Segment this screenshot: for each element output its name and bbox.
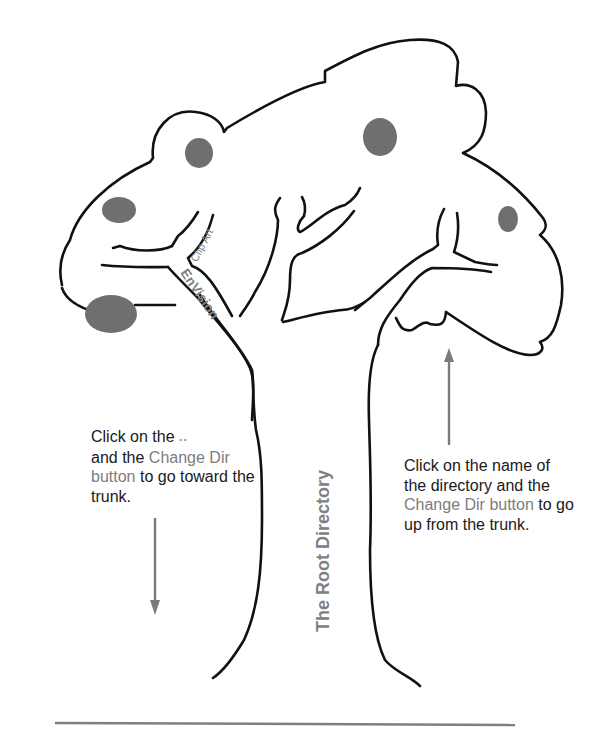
tree-illustration [0, 0, 611, 736]
fruit [498, 206, 518, 232]
branch-right-lower [378, 268, 491, 345]
branch-right-fork-b [454, 213, 497, 265]
caption-toward-trunk: Click on the .. and the Change Dir butto… [91, 427, 261, 506]
branch-left-upper [113, 246, 172, 251]
branch-mid-lower [282, 211, 354, 320]
crown-outline [60, 40, 562, 355]
caption-text: and the [91, 449, 144, 466]
fruit [363, 118, 397, 156]
fruit [102, 197, 136, 223]
arrow-up-head-icon [444, 348, 454, 362]
branch-left-lower [102, 265, 168, 267]
caption-up-from-trunk: Click on the name of the directory and t… [404, 456, 574, 534]
branch-right-fork-a [355, 209, 444, 310]
fruit [85, 295, 137, 333]
parent-directory-dots-icon: .. [179, 430, 188, 444]
branch-clipart-left [172, 212, 198, 246]
change-dir-button-reference: Change Dir button [404, 496, 534, 513]
caption-text: Click on the name of the directory and t… [404, 457, 550, 494]
fruit [185, 138, 213, 168]
branch-mid-base [283, 302, 365, 322]
down-arrow [150, 518, 160, 615]
up-arrow [444, 348, 454, 445]
branch-mid-center [298, 188, 360, 232]
arrow-down-head-icon [150, 600, 160, 615]
ground-line [55, 723, 515, 725]
branch-lower-right [396, 312, 446, 330]
caption-text: Click on the [91, 428, 175, 445]
label-root-directory: The Root Directory [313, 470, 334, 632]
branch-mid-left [240, 198, 280, 316]
branch-envision-left [168, 267, 253, 420]
